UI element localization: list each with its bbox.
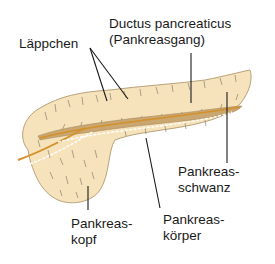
- label-koerper-line2: körper: [163, 228, 201, 244]
- label-laeppchen: Läppchen: [19, 36, 78, 52]
- label-kopf-line2: kopf: [71, 232, 97, 248]
- leader-koerper: [146, 138, 160, 208]
- label-ductus-line2: (Pankreasgang): [109, 32, 205, 48]
- label-ductus-line1: Ductus pancreaticus: [109, 16, 231, 32]
- label-schwanz-line2: schwanz: [178, 180, 231, 196]
- label-kopf-line1: Pankreas-: [71, 216, 133, 232]
- label-koerper-line1: Pankreas-: [163, 212, 225, 228]
- label-schwanz-line1: Pankreas-: [178, 164, 240, 180]
- pancreas-diagram: Läppchen Ductus pancreaticus (Pankreasga…: [0, 0, 275, 264]
